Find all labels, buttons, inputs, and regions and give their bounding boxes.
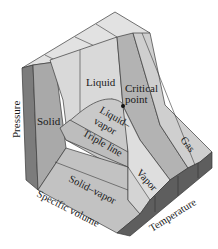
label-solid: Solid [37,115,61,127]
axis-label-pressure: Pressure [10,101,22,138]
pvt-surface-diagram: Pressure Specific volume Temperature Sol… [0,0,218,249]
label-liquid: Liquid [86,76,116,88]
label-critical-point-2: point [125,93,148,105]
